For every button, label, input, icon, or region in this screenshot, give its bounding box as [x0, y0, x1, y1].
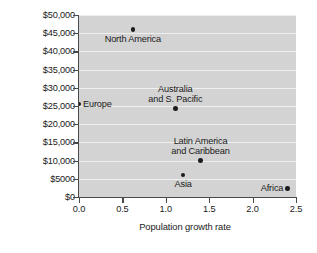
x-axis-tick-mark	[209, 198, 210, 203]
data-point-label-line: Latin America	[171, 136, 229, 146]
x-axis-tick-mark	[296, 198, 297, 203]
gridline	[79, 70, 296, 71]
data-point[interactable]	[285, 186, 290, 191]
data-point-label-line: Africa	[261, 183, 284, 193]
data-point[interactable]	[173, 106, 178, 111]
y-axis-tick-mark	[73, 161, 78, 162]
x-axis-tick-label: 1.0	[146, 204, 186, 214]
y-axis-tick-mark	[73, 15, 78, 16]
x-axis-tick-label: 0.5	[102, 204, 142, 214]
y-axis-tick-mark	[73, 88, 78, 89]
y-axis-tick-label: $50,000	[23, 10, 75, 20]
data-point-label: Africa	[261, 183, 284, 193]
x-axis-tick-mark	[79, 198, 80, 203]
data-point-label: Australiaand S. Pacific	[148, 84, 202, 105]
y-axis-tick-label: $5000	[23, 174, 75, 184]
y-axis-tick-label: $15,000	[23, 137, 75, 147]
data-point-label-line: and Caribbean	[171, 146, 229, 156]
x-axis-line	[78, 197, 297, 198]
y-axis-tick-label: $0	[23, 192, 75, 202]
y-axis-tick-mark	[73, 106, 78, 107]
y-axis-tick-mark	[73, 124, 78, 125]
data-point-label-line: Asia	[175, 179, 192, 189]
x-axis-tick-mark	[253, 198, 254, 203]
data-point[interactable]	[131, 27, 136, 32]
y-axis-tick-mark	[73, 51, 78, 52]
y-axis-tick-label: $35,000	[23, 65, 75, 75]
y-axis-line	[78, 15, 79, 198]
data-point-label: Latin Americaand Caribbean	[171, 136, 229, 157]
data-point-label: Asia	[175, 179, 192, 189]
y-axis-tick-mark	[73, 179, 78, 180]
x-axis-tick-label: 0.0	[59, 204, 99, 214]
scatter-plot-figure: Per-capita income (GNI-PPP1) $0$5000$10,…	[0, 0, 317, 253]
y-axis-tick-mark	[73, 142, 78, 143]
data-point[interactable]	[181, 173, 186, 178]
data-point-label: Europe	[83, 99, 112, 109]
y-axis-tick-mark	[73, 197, 78, 198]
data-point-label-line: Europe	[83, 99, 112, 109]
y-axis-tick-label: $45,000	[23, 28, 75, 38]
y-axis-tick-mark	[73, 70, 78, 71]
gridline	[79, 15, 296, 16]
data-point-label-line: and S. Pacific	[148, 94, 202, 104]
plot-area: North AmericaEuropeAustraliaand S. Pacif…	[79, 15, 296, 197]
y-axis-tick-labels: $0$5000$10,000$15,000$20,000$25,000$30,0…	[20, 0, 75, 253]
gridline	[79, 124, 296, 125]
data-point-label-line: Australia	[148, 84, 202, 94]
gridline	[79, 51, 296, 52]
x-axis-tick-label: 1.5	[189, 204, 229, 214]
x-axis-tick-label: 2.5	[276, 204, 316, 214]
data-point-label: North America	[105, 34, 161, 44]
y-axis-tick-label: $10,000	[23, 156, 75, 166]
x-axis-tick-mark	[166, 198, 167, 203]
y-axis-tick-label: $25,000	[23, 101, 75, 111]
y-axis-tick-label: $30,000	[23, 83, 75, 93]
gridline	[79, 161, 296, 162]
y-axis-tick-label: $40,000	[23, 46, 75, 56]
data-point[interactable]	[198, 158, 203, 163]
data-point-label-line: North America	[105, 34, 161, 44]
x-axis-title: Population growth rate	[60, 221, 310, 232]
y-axis-tick-label: $20,000	[23, 119, 75, 129]
y-axis-tick-mark	[73, 33, 78, 34]
x-axis-tick-mark	[122, 198, 123, 203]
x-axis-tick-label: 2.0	[233, 204, 273, 214]
